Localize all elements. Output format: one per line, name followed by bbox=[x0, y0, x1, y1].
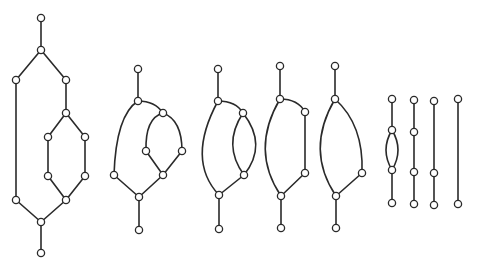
vertex bbox=[331, 62, 338, 69]
edge bbox=[281, 173, 305, 196]
graph-3 bbox=[202, 65, 256, 232]
edge bbox=[48, 176, 66, 200]
graph-9 bbox=[454, 95, 461, 207]
edge bbox=[219, 175, 244, 195]
edge bbox=[335, 99, 362, 173]
edge bbox=[66, 176, 85, 200]
vertex bbox=[81, 172, 88, 179]
graph-figure bbox=[0, 0, 488, 271]
edge bbox=[163, 113, 182, 151]
vertex bbox=[301, 108, 308, 115]
edge bbox=[202, 101, 219, 195]
vertex bbox=[410, 128, 417, 135]
edge bbox=[320, 99, 336, 196]
vertex bbox=[388, 199, 395, 206]
vertex bbox=[388, 166, 395, 173]
vertex bbox=[142, 147, 149, 154]
vertex bbox=[81, 133, 88, 140]
graph-4 bbox=[265, 62, 308, 231]
vertex bbox=[37, 46, 44, 53]
vertex bbox=[135, 226, 142, 233]
vertex bbox=[301, 169, 308, 176]
vertex bbox=[12, 76, 19, 83]
vertex bbox=[358, 169, 365, 176]
graph-6 bbox=[386, 95, 398, 206]
vertex bbox=[44, 133, 51, 140]
edge bbox=[392, 130, 398, 170]
vertex bbox=[332, 224, 339, 231]
vertex bbox=[215, 191, 222, 198]
graph-2 bbox=[110, 65, 185, 233]
graph-1 bbox=[12, 14, 88, 256]
vertex bbox=[214, 97, 221, 104]
edge bbox=[41, 200, 66, 222]
vertex bbox=[159, 109, 166, 116]
vertex bbox=[388, 126, 395, 133]
vertex bbox=[37, 249, 44, 256]
vertex bbox=[215, 225, 222, 232]
diagram-canvas bbox=[0, 0, 488, 271]
vertex bbox=[37, 218, 44, 225]
graph-7 bbox=[410, 96, 417, 207]
vertex bbox=[410, 168, 417, 175]
edge bbox=[336, 173, 362, 196]
edge bbox=[139, 175, 163, 197]
edge bbox=[146, 151, 163, 175]
vertex bbox=[62, 76, 69, 83]
vertex bbox=[239, 109, 246, 116]
vertex bbox=[110, 171, 117, 178]
edge bbox=[114, 101, 138, 175]
edge bbox=[243, 113, 256, 175]
edge bbox=[66, 113, 85, 137]
vertex bbox=[276, 62, 283, 69]
graph-8 bbox=[430, 97, 437, 208]
edge bbox=[163, 151, 182, 175]
vertex bbox=[276, 95, 283, 102]
edge bbox=[265, 99, 281, 196]
edge bbox=[16, 50, 41, 80]
vertex bbox=[430, 97, 437, 104]
vertex bbox=[159, 171, 166, 178]
vertex bbox=[134, 65, 141, 72]
vertex bbox=[277, 192, 284, 199]
vertex bbox=[134, 97, 141, 104]
vertex bbox=[410, 200, 417, 207]
vertex bbox=[240, 171, 247, 178]
vertex bbox=[12, 196, 19, 203]
vertex bbox=[135, 193, 142, 200]
vertex bbox=[332, 192, 339, 199]
vertex bbox=[62, 109, 69, 116]
edge bbox=[386, 130, 392, 170]
vertex bbox=[454, 200, 461, 207]
vertex bbox=[44, 172, 51, 179]
edge bbox=[146, 113, 163, 151]
edge bbox=[48, 113, 66, 137]
edge bbox=[16, 200, 41, 222]
edge bbox=[233, 113, 244, 175]
vertex bbox=[454, 95, 461, 102]
edge bbox=[114, 175, 139, 197]
vertex bbox=[430, 201, 437, 208]
edge bbox=[41, 50, 66, 80]
vertex bbox=[388, 95, 395, 102]
vertex bbox=[277, 224, 284, 231]
graph-5 bbox=[320, 62, 365, 231]
vertex bbox=[178, 147, 185, 154]
vertex bbox=[214, 65, 221, 72]
vertex bbox=[410, 96, 417, 103]
vertex bbox=[62, 196, 69, 203]
vertex bbox=[331, 95, 338, 102]
vertex bbox=[430, 169, 437, 176]
vertex bbox=[37, 14, 44, 21]
